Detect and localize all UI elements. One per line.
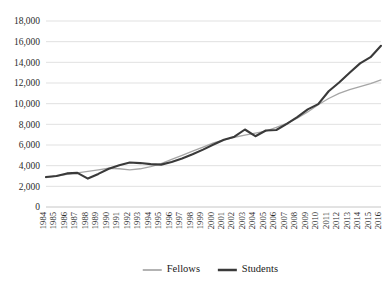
x-tick-label: 2000 — [206, 212, 216, 229]
y-tick-label: 2,000 — [19, 182, 41, 192]
x-tick-label: 2016 — [373, 211, 383, 229]
chart-canvas: 02,0004,0006,0008,00010,00012,00014,0001… — [0, 0, 391, 283]
x-tick-label: 1989 — [90, 212, 100, 229]
legend-label-fellows: Fellows — [167, 263, 200, 274]
x-tick-label: 1998 — [185, 212, 195, 229]
x-tick-label: 1999 — [195, 212, 205, 229]
y-tick-label: 8,000 — [19, 120, 41, 130]
chart-legend: FellowsStudents — [143, 263, 278, 274]
y-tick-label: 16,000 — [14, 37, 40, 47]
x-tick-label: 1988 — [80, 212, 90, 229]
x-tick-label: 1987 — [69, 211, 79, 229]
x-tick-label: 1986 — [59, 211, 69, 229]
y-tick-label: 0 — [35, 202, 40, 212]
x-tick-label: 1994 — [143, 211, 153, 229]
x-tick-label: 2007 — [279, 211, 289, 229]
x-tick-label: 1991 — [111, 212, 121, 229]
legend-label-students: Students — [242, 263, 278, 274]
x-tick-label: 2011 — [321, 212, 331, 229]
x-tick-label: 2003 — [237, 212, 247, 229]
x-tick-label: 1984 — [38, 211, 48, 229]
gridlines-group — [46, 21, 381, 207]
x-tick-label: 2014 — [352, 211, 362, 229]
data-series-group — [46, 46, 381, 179]
x-tick-label: 2010 — [310, 212, 320, 229]
x-tick-label: 2004 — [247, 211, 257, 229]
y-tick-label: 10,000 — [14, 99, 40, 109]
series-line-students — [46, 46, 381, 179]
x-tick-label: 1993 — [132, 212, 142, 229]
x-tick-label: 2006 — [268, 211, 278, 229]
x-tick-label: 1997 — [174, 211, 184, 229]
x-tick-label: 1985 — [48, 212, 58, 229]
y-tick-label: 4,000 — [19, 161, 41, 171]
y-axis-tick-labels: 02,0004,0006,0008,00010,00012,00014,0001… — [14, 16, 40, 212]
y-tick-label: 14,000 — [14, 58, 40, 68]
x-tick-label: 2012 — [331, 212, 341, 229]
x-tick-label: 1995 — [153, 212, 163, 229]
y-tick-label: 6,000 — [19, 140, 41, 150]
series-line-fellows — [46, 80, 381, 178]
x-tick-label: 2015 — [363, 212, 373, 229]
x-tick-label: 1990 — [101, 212, 111, 229]
x-tick-label: 1992 — [122, 212, 132, 229]
x-tick-label: 2009 — [300, 212, 310, 229]
x-tick-label: 2002 — [226, 212, 236, 229]
x-tick-label: 2001 — [216, 212, 226, 229]
y-tick-label: 18,000 — [14, 16, 40, 26]
x-tick-label: 1996 — [164, 211, 174, 229]
x-axis-tick-labels: 1984198519861987198819891990199119921993… — [38, 211, 383, 229]
line-chart-container: 02,0004,0006,0008,00010,00012,00014,0001… — [0, 0, 391, 283]
y-tick-label: 12,000 — [14, 78, 40, 88]
x-tick-label: 2008 — [289, 212, 299, 229]
x-tick-label: 2005 — [258, 212, 268, 229]
x-tick-label: 2013 — [342, 212, 352, 229]
